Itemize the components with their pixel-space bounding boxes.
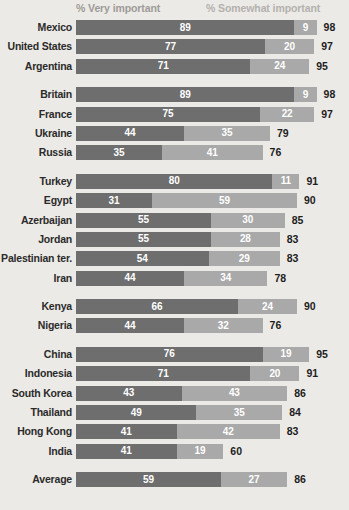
bar-segment-very-important: 59 bbox=[76, 472, 221, 487]
chart-row: Kenya662490 bbox=[0, 298, 349, 317]
legend-very-important: % Very important bbox=[76, 2, 160, 14]
row-total: 60 bbox=[230, 443, 242, 459]
row-total: 95 bbox=[316, 346, 328, 362]
row-total: 91 bbox=[306, 173, 318, 189]
chart-row: China761995 bbox=[0, 346, 349, 365]
row-total: 98 bbox=[324, 19, 336, 35]
bar-segment-very-important: 44 bbox=[76, 271, 184, 286]
stacked-bar: 5528 bbox=[76, 232, 280, 247]
row-total: 85 bbox=[292, 212, 304, 228]
chart-rows: Mexico89998United States772097Argentina7… bbox=[0, 19, 349, 491]
row-label: Azerbaijan bbox=[0, 212, 72, 228]
bar-value-very-important: 41 bbox=[121, 427, 132, 437]
bar-segment-very-important: 80 bbox=[76, 174, 272, 189]
bar-segment-somewhat-important: 20 bbox=[250, 366, 299, 381]
bar-segment-somewhat-important: 19 bbox=[177, 444, 224, 459]
bar-segment-somewhat-important: 41 bbox=[162, 145, 263, 160]
row-total: 86 bbox=[294, 385, 306, 401]
bar-segment-very-important: 55 bbox=[76, 213, 211, 228]
row-total: 86 bbox=[294, 471, 306, 487]
bar-segment-very-important: 41 bbox=[76, 424, 177, 439]
bar-value-very-important: 43 bbox=[123, 388, 134, 398]
stacked-bar: 4432 bbox=[76, 318, 263, 333]
row-total: 97 bbox=[321, 38, 333, 54]
bar-segment-very-important: 75 bbox=[76, 107, 260, 122]
bar-value-somewhat-important: 20 bbox=[284, 42, 295, 52]
chart-row: Egypt315990 bbox=[0, 192, 349, 211]
chart-row: Turkey801191 bbox=[0, 173, 349, 192]
row-total: 79 bbox=[277, 125, 289, 141]
chart-row: Jordan552883 bbox=[0, 231, 349, 250]
chart-legend: % Very important % Somewhat important bbox=[0, 2, 349, 18]
bar-value-somewhat-important: 19 bbox=[194, 446, 205, 456]
row-label: Ukraine bbox=[0, 125, 72, 141]
chart-row: United States772097 bbox=[0, 38, 349, 57]
chart-row: Azerbaijan553085 bbox=[0, 212, 349, 231]
bar-segment-somewhat-important: 59 bbox=[152, 193, 297, 208]
bar-value-somewhat-important: 20 bbox=[269, 369, 280, 379]
bar-value-very-important: 71 bbox=[158, 369, 169, 379]
stacked-bar: 8011 bbox=[76, 174, 299, 189]
chart-row: Ukraine443579 bbox=[0, 125, 349, 144]
stacked-bar: 6624 bbox=[76, 299, 297, 314]
bar-segment-very-important: 44 bbox=[76, 126, 184, 141]
chart-row: Hong Kong414283 bbox=[0, 423, 349, 442]
row-total: 90 bbox=[304, 192, 316, 208]
stacked-bar: 5429 bbox=[76, 251, 280, 266]
chart-row: Average592786 bbox=[0, 471, 349, 490]
bar-segment-somewhat-important: 24 bbox=[250, 59, 309, 74]
chart-row: Russia354176 bbox=[0, 144, 349, 163]
legend-somewhat-important: % Somewhat important bbox=[206, 2, 320, 14]
bar-value-very-important: 76 bbox=[164, 349, 175, 359]
bar-segment-somewhat-important: 43 bbox=[182, 386, 288, 401]
chart-row: India411960 bbox=[0, 443, 349, 462]
row-label: South Korea bbox=[0, 385, 72, 401]
bar-segment-somewhat-important: 9 bbox=[294, 87, 316, 102]
bar-value-very-important: 89 bbox=[180, 90, 191, 100]
stacked-bar: 4119 bbox=[76, 444, 223, 459]
bar-value-very-important: 41 bbox=[121, 446, 132, 456]
row-total: 83 bbox=[287, 231, 299, 247]
row-total: 78 bbox=[274, 270, 286, 286]
row-label: Average bbox=[0, 471, 72, 487]
bar-value-somewhat-important: 9 bbox=[303, 23, 308, 33]
row-label: Iran bbox=[0, 270, 72, 286]
chart-row: Mexico89998 bbox=[0, 19, 349, 38]
stacked-bar: 7720 bbox=[76, 39, 314, 54]
bar-segment-very-important: 89 bbox=[76, 20, 294, 35]
bar-value-very-important: 44 bbox=[125, 128, 136, 138]
row-label: Kenya bbox=[0, 298, 72, 314]
row-total: 83 bbox=[287, 423, 299, 439]
stacked-bar: 4435 bbox=[76, 126, 270, 141]
bar-segment-very-important: 41 bbox=[76, 444, 177, 459]
bar-value-very-important: 54 bbox=[137, 254, 148, 264]
bar-value-somewhat-important: 11 bbox=[281, 176, 291, 186]
chart-row: Nigeria443276 bbox=[0, 317, 349, 336]
bar-value-very-important: 49 bbox=[131, 408, 142, 418]
bar-value-very-important: 75 bbox=[163, 109, 174, 119]
bar-segment-somewhat-important: 30 bbox=[211, 213, 285, 228]
stacked-bar: 7120 bbox=[76, 366, 299, 381]
row-label: Palestinian ter. bbox=[0, 250, 72, 266]
bar-value-somewhat-important: 24 bbox=[274, 61, 285, 71]
row-total: 95 bbox=[316, 58, 328, 74]
bar-segment-very-important: 66 bbox=[76, 299, 238, 314]
bar-segment-somewhat-important: 9 bbox=[294, 20, 316, 35]
bar-value-somewhat-important: 24 bbox=[262, 302, 273, 312]
row-label: Indonesia bbox=[0, 365, 72, 381]
chart-row: Thailand493584 bbox=[0, 404, 349, 423]
row-label: Thailand bbox=[0, 404, 72, 420]
stacked-bar: 899 bbox=[76, 87, 317, 102]
row-label: Russia bbox=[0, 144, 72, 160]
bar-segment-somewhat-important: 35 bbox=[184, 126, 270, 141]
stacked-bar: 5927 bbox=[76, 472, 287, 487]
bar-value-very-important: 77 bbox=[165, 42, 176, 52]
stacked-bar: 3159 bbox=[76, 193, 297, 208]
bar-segment-somewhat-important: 20 bbox=[265, 39, 314, 54]
row-label: Argentina bbox=[0, 58, 72, 74]
stacked-bar: 7522 bbox=[76, 107, 314, 122]
bar-segment-somewhat-important: 35 bbox=[196, 405, 282, 420]
bar-segment-very-important: 31 bbox=[76, 193, 152, 208]
row-total: 76 bbox=[270, 144, 282, 160]
chart-row: Indonesia712091 bbox=[0, 365, 349, 384]
